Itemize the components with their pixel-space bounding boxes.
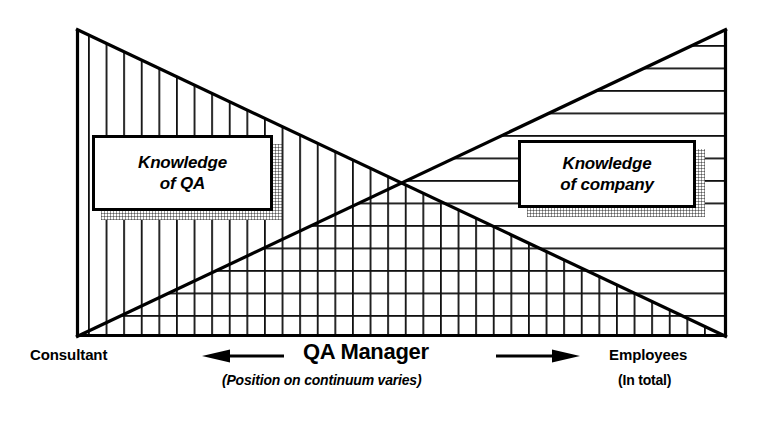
arrow-left-icon <box>200 345 290 367</box>
arrow-right-icon <box>492 345 582 367</box>
consultant-label: Consultant <box>30 346 107 363</box>
diagram-canvas: Knowledge of QA Knowledge of company Con… <box>0 0 767 429</box>
knowledge-of-qa-box: Knowledge of QA <box>92 135 273 211</box>
knowledge-of-qa-label: Knowledge of QA <box>138 152 227 195</box>
knowledge-of-company-label: Knowledge of company <box>560 153 653 196</box>
position-continuum-sublabel: (Position on continuum varies) <box>222 372 421 388</box>
knowledge-of-company-box: Knowledge of company <box>518 140 696 208</box>
in-total-sublabel: (In total) <box>618 372 671 388</box>
employees-label: Employees <box>609 346 687 363</box>
qa-manager-label: QA Manager <box>303 339 429 365</box>
